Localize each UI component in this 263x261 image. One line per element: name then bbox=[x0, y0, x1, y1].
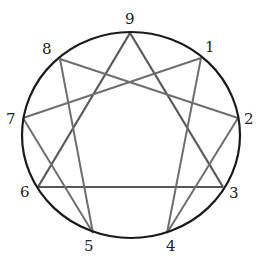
point-label-5: 5 bbox=[84, 237, 94, 255]
point-labels: 123456789 bbox=[6, 10, 254, 255]
enneagram-circle bbox=[22, 32, 240, 238]
point-label-1: 1 bbox=[205, 38, 215, 56]
hexad-line-2-8 bbox=[60, 59, 238, 118]
point-label-6: 6 bbox=[20, 183, 30, 201]
point-label-3: 3 bbox=[229, 184, 239, 202]
point-label-4: 4 bbox=[166, 237, 176, 255]
enneagram-diagram: 123456789 bbox=[0, 0, 263, 261]
connecting-lines bbox=[23, 33, 238, 233]
point-label-2: 2 bbox=[244, 110, 254, 128]
point-label-7: 7 bbox=[6, 110, 16, 128]
point-label-8: 8 bbox=[42, 40, 52, 58]
point-label-9: 9 bbox=[125, 10, 135, 28]
